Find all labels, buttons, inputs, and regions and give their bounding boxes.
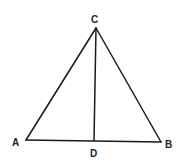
segment-cd <box>94 28 96 141</box>
label-a: A <box>12 137 19 148</box>
triangle-diagram: C A B D <box>0 0 185 162</box>
label-b: B <box>165 139 172 150</box>
segment-ac <box>26 28 96 140</box>
segment-cb <box>96 28 161 142</box>
label-d: D <box>90 148 97 159</box>
label-c: C <box>91 14 98 25</box>
